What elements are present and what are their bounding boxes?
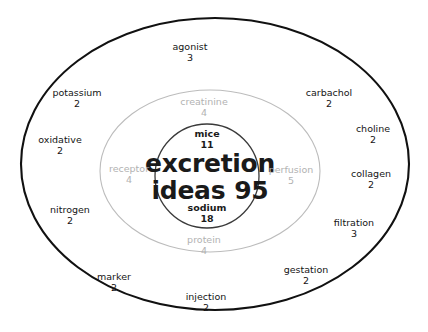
term-count: 2 (38, 146, 81, 157)
outer-term-choline: choline 2 (356, 124, 390, 146)
outer-term-injection: injection 2 (186, 292, 227, 314)
inner-term-mice: mice 11 (194, 129, 219, 151)
term-count: 3 (334, 229, 374, 240)
term-count: 3 (173, 53, 208, 64)
outer-term-gestation: gestation 2 (284, 265, 329, 287)
term-count: 2 (50, 216, 90, 227)
term-count: 2 (351, 180, 391, 191)
middle-term-perfusion: perfusion 5 (269, 165, 314, 187)
term-count: 5 (269, 176, 314, 187)
inner-term-sodium: sodium 18 (188, 203, 227, 225)
core-term-block: excretion ideas95 (145, 151, 275, 204)
term-count: 2 (284, 276, 329, 287)
term-count: 4 (180, 108, 227, 119)
middle-term-creatinine: creatinine 4 (180, 97, 227, 119)
outer-term-carbachol: carbachol 2 (306, 88, 353, 110)
term-count: 2 (306, 99, 353, 110)
core-term: excretion (145, 151, 275, 178)
term-count: 4 (109, 175, 149, 186)
outer-term-potassium: potassium 2 (52, 88, 101, 110)
core-count: 95 (234, 175, 268, 204)
outer-term-filtration: filtration 3 (334, 218, 374, 240)
term-map-figure: excretion ideas95 mice 11 sodium 18 crea… (0, 0, 428, 332)
middle-term-receptor: receptor 4 (109, 164, 149, 186)
outer-term-marker: marker 2 (97, 272, 131, 294)
core-label-count: ideas95 (145, 177, 275, 204)
outer-term-nitrogen: nitrogen 2 (50, 205, 90, 227)
core-label: ideas (152, 175, 226, 204)
middle-term-protein: protein 4 (187, 235, 221, 257)
term-count: 4 (187, 246, 221, 257)
outer-term-oxidative: oxidative 2 (38, 135, 81, 157)
term-count: 2 (356, 135, 390, 146)
term-count: 11 (194, 140, 219, 151)
outer-term-agonist: agonist 3 (173, 42, 208, 64)
term-count: 18 (188, 214, 227, 225)
term-count: 2 (186, 303, 227, 314)
term-count: 2 (52, 99, 101, 110)
term-count: 2 (97, 283, 131, 294)
outer-term-collagen: collagen 2 (351, 169, 391, 191)
